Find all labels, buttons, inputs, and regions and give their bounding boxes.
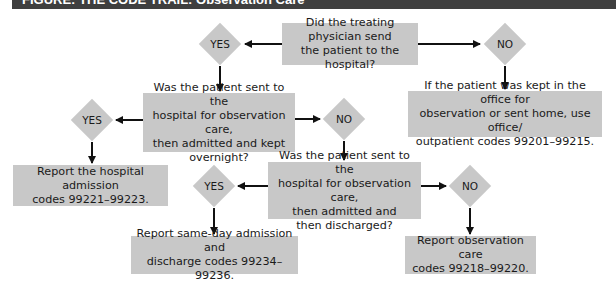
decision-label: NO xyxy=(323,98,365,140)
question-physician-sent-to-hospital: Did the treating physician send the pati… xyxy=(282,23,418,65)
decision-label: YES xyxy=(199,23,241,65)
decision-yes-2: YES xyxy=(71,99,113,141)
decision-yes-1: YES xyxy=(199,23,241,65)
decision-label: NO xyxy=(484,23,526,65)
decision-no-3: NO xyxy=(449,165,491,207)
result-office-outpatient-codes: If the patient was kept in the office fo… xyxy=(408,91,602,137)
question-admitted-overnight: Was the patient sent to the hospital for… xyxy=(143,93,295,152)
decision-yes-3: YES xyxy=(193,165,235,207)
result-observation-care-codes: Report observation care codes 99218–9922… xyxy=(405,236,536,274)
decision-no-1: NO xyxy=(484,23,526,65)
decision-label: NO xyxy=(449,165,491,207)
decision-label: YES xyxy=(71,99,113,141)
decision-label: YES xyxy=(193,165,235,207)
result-hospital-admission-codes: Report the hospital admission codes 9922… xyxy=(13,165,168,206)
question-admitted-then-discharged: Was the patient sent to the hospital for… xyxy=(268,162,421,219)
decision-no-2: NO xyxy=(323,98,365,140)
result-same-day-admission-discharge-codes: Report same-day admission and discharge … xyxy=(131,236,298,274)
